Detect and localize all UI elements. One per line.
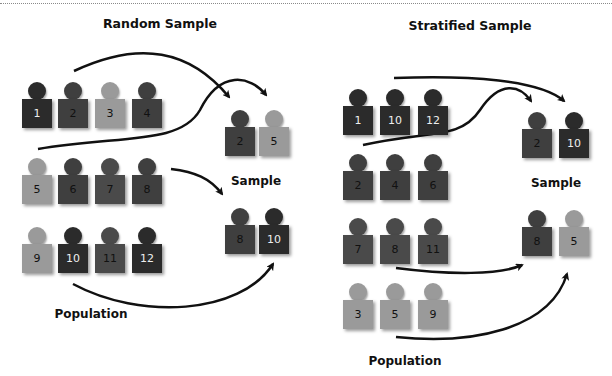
person-icon: 10 bbox=[58, 227, 88, 275]
person-number: 6 bbox=[58, 175, 88, 204]
person-icon: 8 bbox=[132, 158, 162, 206]
person-number: 3 bbox=[343, 300, 373, 329]
person-icon: 9 bbox=[22, 227, 52, 275]
person-head-icon bbox=[64, 158, 82, 176]
person-head-icon bbox=[424, 283, 442, 301]
stratified-sample-label: Sample bbox=[531, 176, 581, 190]
person-head-icon bbox=[265, 208, 283, 226]
person-head-icon bbox=[101, 82, 119, 100]
person-head-icon bbox=[101, 227, 119, 245]
person-head-icon bbox=[231, 110, 249, 128]
person-head-icon bbox=[565, 112, 583, 130]
person-number: 6 bbox=[418, 171, 448, 200]
person-number: 11 bbox=[418, 235, 448, 264]
person-number: 1 bbox=[343, 106, 373, 135]
person-number: 2 bbox=[58, 99, 88, 128]
person-head-icon bbox=[386, 154, 404, 172]
person-number: 7 bbox=[343, 235, 373, 264]
person-number: 10 bbox=[380, 106, 410, 135]
person-icon: 10 bbox=[259, 208, 289, 256]
person-number: 2 bbox=[343, 171, 373, 200]
person-number: 5 bbox=[380, 300, 410, 329]
person-number: 10 bbox=[259, 225, 289, 254]
person-icon: 6 bbox=[418, 154, 448, 202]
person-head-icon bbox=[138, 82, 156, 100]
person-head-icon bbox=[349, 89, 367, 107]
person-icon: 5 bbox=[259, 110, 289, 158]
person-head-icon bbox=[64, 227, 82, 245]
person-number: 9 bbox=[418, 300, 448, 329]
person-head-icon bbox=[138, 158, 156, 176]
random-sample-label: Sample bbox=[231, 174, 281, 188]
person-head-icon bbox=[386, 283, 404, 301]
person-head-icon bbox=[28, 82, 46, 100]
person-number: 9 bbox=[22, 244, 52, 273]
person-head-icon bbox=[231, 208, 249, 226]
person-icon: 3 bbox=[95, 82, 125, 130]
person-head-icon bbox=[528, 210, 546, 228]
person-head-icon bbox=[28, 227, 46, 245]
person-icon: 5 bbox=[559, 210, 589, 258]
person-number: 8 bbox=[132, 175, 162, 204]
person-icon: 8 bbox=[225, 208, 255, 256]
person-head-icon bbox=[349, 218, 367, 236]
person-head-icon bbox=[528, 112, 546, 130]
person-icon: 10 bbox=[559, 112, 589, 160]
person-number: 12 bbox=[132, 244, 162, 273]
person-number: 4 bbox=[132, 99, 162, 128]
person-number: 10 bbox=[58, 244, 88, 273]
person-number: 8 bbox=[522, 227, 552, 256]
person-icon: 12 bbox=[132, 227, 162, 275]
person-number: 5 bbox=[559, 227, 589, 256]
person-head-icon bbox=[349, 283, 367, 301]
person-number: 1 bbox=[22, 99, 52, 128]
person-head-icon bbox=[138, 227, 156, 245]
person-icon: 6 bbox=[58, 158, 88, 206]
person-icon: 8 bbox=[380, 218, 410, 266]
person-number: 2 bbox=[225, 127, 255, 156]
person-number: 10 bbox=[559, 129, 589, 158]
person-number: 4 bbox=[380, 171, 410, 200]
person-number: 12 bbox=[418, 106, 448, 135]
person-head-icon bbox=[64, 82, 82, 100]
person-head-icon bbox=[28, 158, 46, 176]
person-icon: 2 bbox=[343, 154, 373, 202]
person-icon: 11 bbox=[418, 218, 448, 266]
person-head-icon bbox=[265, 110, 283, 128]
person-number: 3 bbox=[95, 99, 125, 128]
person-head-icon bbox=[424, 218, 442, 236]
person-icon: 2 bbox=[225, 110, 255, 158]
person-head-icon bbox=[424, 154, 442, 172]
arrow-8-to-sample-s bbox=[396, 265, 522, 273]
stratified-population-label: Population bbox=[368, 354, 441, 368]
person-icon: 2 bbox=[58, 82, 88, 130]
person-number: 8 bbox=[225, 225, 255, 254]
person-icon: 9 bbox=[418, 283, 448, 331]
person-head-icon bbox=[101, 158, 119, 176]
person-head-icon bbox=[565, 210, 583, 228]
person-icon: 5 bbox=[22, 158, 52, 206]
person-icon: 7 bbox=[343, 218, 373, 266]
arrow-8-to-sample bbox=[171, 169, 222, 194]
person-icon: 4 bbox=[380, 154, 410, 202]
person-number: 7 bbox=[95, 175, 125, 204]
person-head-icon bbox=[424, 89, 442, 107]
person-number: 5 bbox=[22, 175, 52, 204]
person-icon: 5 bbox=[380, 283, 410, 331]
person-head-icon bbox=[386, 218, 404, 236]
person-number: 11 bbox=[95, 244, 125, 273]
person-number: 5 bbox=[259, 127, 289, 156]
person-icon: 3 bbox=[343, 283, 373, 331]
person-head-icon bbox=[349, 154, 367, 172]
person-icon: 1 bbox=[343, 89, 373, 137]
person-icon: 2 bbox=[522, 112, 552, 160]
person-head-icon bbox=[386, 89, 404, 107]
person-icon: 4 bbox=[132, 82, 162, 130]
person-icon: 1 bbox=[22, 82, 52, 130]
person-number: 8 bbox=[380, 235, 410, 264]
person-icon: 7 bbox=[95, 158, 125, 206]
person-icon: 10 bbox=[380, 89, 410, 137]
person-icon: 8 bbox=[522, 210, 552, 258]
person-number: 2 bbox=[522, 129, 552, 158]
random-population-label: Population bbox=[54, 307, 127, 321]
